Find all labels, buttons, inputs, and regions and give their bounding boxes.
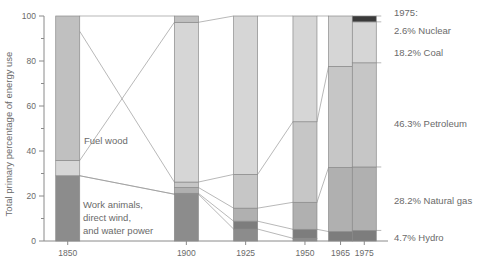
- bar-segment-natural-gas: [234, 208, 258, 221]
- x-tick-label: 1965: [331, 248, 350, 258]
- bar-segment-hydro: [234, 221, 258, 229]
- bar-segment-coal: [56, 160, 80, 175]
- bar-segment-natural-gas: [174, 187, 198, 193]
- x-tick-label: 1950: [296, 248, 315, 258]
- bar-segment-petroleum: [234, 174, 258, 208]
- bar-1975: [352, 16, 376, 241]
- leader-fuel-wood: [80, 31, 175, 182]
- side-label-coal: 18.2% Coal: [394, 47, 443, 58]
- work-animals-annotation-line-2: direct wind,: [83, 212, 131, 223]
- x-tick-label: 1975: [355, 248, 374, 258]
- bar-1965: [329, 16, 353, 241]
- connector-line-natural-gas: [258, 202, 293, 208]
- bar-1850: [56, 16, 80, 241]
- bar-1950: [293, 16, 317, 241]
- bar-segment-work-animals: [174, 194, 198, 241]
- connector-line-petroleum: [258, 122, 293, 175]
- work-animals-annotation-line-1: Work animals,: [83, 199, 143, 210]
- side-label-heading-1975: 1975:: [394, 7, 418, 18]
- bar-segment-coal: [234, 16, 258, 174]
- bar-segment-coal: [352, 22, 376, 63]
- y-tick-label: 0: [31, 236, 36, 246]
- bar-segment-nuclear: [352, 16, 376, 22]
- y-tick-label: 100: [22, 11, 36, 21]
- side-label-petroleum: 46.3% Petroleum: [394, 118, 467, 129]
- bar-segment-petroleum: [293, 122, 317, 203]
- side-label-nuclear: 2.6% Nuclear: [394, 25, 451, 36]
- bar-segment-natural-gas: [293, 202, 317, 229]
- connector-line-petroleum: [198, 174, 233, 182]
- bar-segment-hydro: [329, 232, 353, 241]
- bar-segment-petroleum: [329, 66, 353, 167]
- bar-1925: [234, 16, 258, 241]
- y-tick-label: 40: [27, 146, 37, 156]
- side-label-natural-gas: 28.2% Natural gas: [394, 195, 472, 206]
- y-tick-label: 20: [27, 191, 37, 201]
- connector-line-petroleum: [317, 66, 329, 121]
- bar-segment-natural-gas: [329, 167, 353, 231]
- y-axis-title: Total primary percentage of energy use: [3, 52, 14, 217]
- bar-segment-hydro: [352, 230, 376, 241]
- bar-segment-petroleum: [174, 182, 198, 187]
- y-tick-label: 60: [27, 101, 37, 111]
- energy-use-stacked-bar-chart: 020406080100185019001925195019651975 Tot…: [0, 0, 478, 268]
- y-tick-label: 80: [27, 56, 37, 66]
- side-label-hydro: 4.7% Hydro: [394, 232, 444, 243]
- connector-line-coal: [198, 16, 233, 22]
- connector-line-work-animals: [198, 194, 233, 229]
- work-animals-annotation-line-3: and water power: [83, 225, 153, 236]
- leader-work-animals: [80, 176, 175, 194]
- x-tick-label: 1900: [177, 248, 196, 258]
- connector-line-work-animals: [258, 229, 293, 238]
- connector-line-hydro: [317, 229, 329, 231]
- bar-segment-hydro: [293, 229, 317, 238]
- bar-segment-petroleum: [352, 63, 376, 167]
- bar-segment-coal: [329, 16, 353, 66]
- bar-1900: [174, 16, 198, 241]
- bar-segment-coal: [174, 22, 198, 182]
- connector-line-hydro: [258, 221, 293, 229]
- x-tick-label: 1850: [58, 248, 77, 258]
- bar-segment-natural-gas: [352, 167, 376, 230]
- bar-segment-coal: [293, 16, 317, 122]
- bar-segment-work-animals: [56, 176, 80, 241]
- fuel-wood-annotation: Fuel wood: [84, 135, 128, 146]
- x-tick-label: 1925: [236, 248, 255, 258]
- chart-canvas: 020406080100185019001925195019651975 Tot…: [0, 0, 478, 268]
- bar-segment-work-animals: [293, 238, 317, 241]
- connector-line-natural-gas: [317, 167, 329, 202]
- bar-segment-work-animals: [234, 229, 258, 241]
- bar-segment-fuel-wood: [56, 16, 80, 160]
- bar-segment-fuel-wood: [174, 16, 198, 22]
